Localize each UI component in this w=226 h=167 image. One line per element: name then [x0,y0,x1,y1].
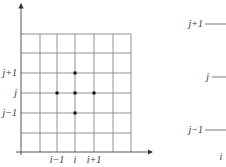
point-i-j [74,92,77,95]
label-j-minus-1: j−1 [0,107,17,118]
point-iminus1-j [56,92,59,95]
stencil-diagram: j+1 j j−1 i−1 i i+1 j+1 j j−1 i [0,0,226,167]
label-i-minus-1: i−1 [50,154,65,165]
right-panel: j+1 j j−1 i [186,18,226,162]
right-label-j-plus-1: j+1 [186,18,203,29]
label-j: j [12,87,17,98]
label-i: i [74,154,77,165]
point-i-jminus1 [74,112,77,115]
label-i-plus-1: i+1 [87,154,102,165]
right-label-j: j [204,71,209,82]
label-j-plus-1: j+1 [0,67,17,78]
point-iplus1-j [93,92,96,95]
right-label-i: i [220,151,223,162]
point-i-jplus1 [74,72,77,75]
right-label-j-minus-1: j−1 [186,124,203,135]
